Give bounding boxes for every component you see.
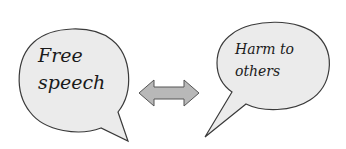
- right-bubble-line-2: others: [235, 60, 294, 82]
- left-bubble-line-1: Free: [38, 42, 105, 69]
- double-headed-arrow-icon: [139, 80, 199, 106]
- right-bubble-text: Harm to others: [235, 38, 294, 82]
- left-bubble-text: Free speech: [38, 42, 105, 96]
- left-bubble-line-2: speech: [38, 69, 105, 96]
- right-bubble-line-1: Harm to: [235, 38, 294, 60]
